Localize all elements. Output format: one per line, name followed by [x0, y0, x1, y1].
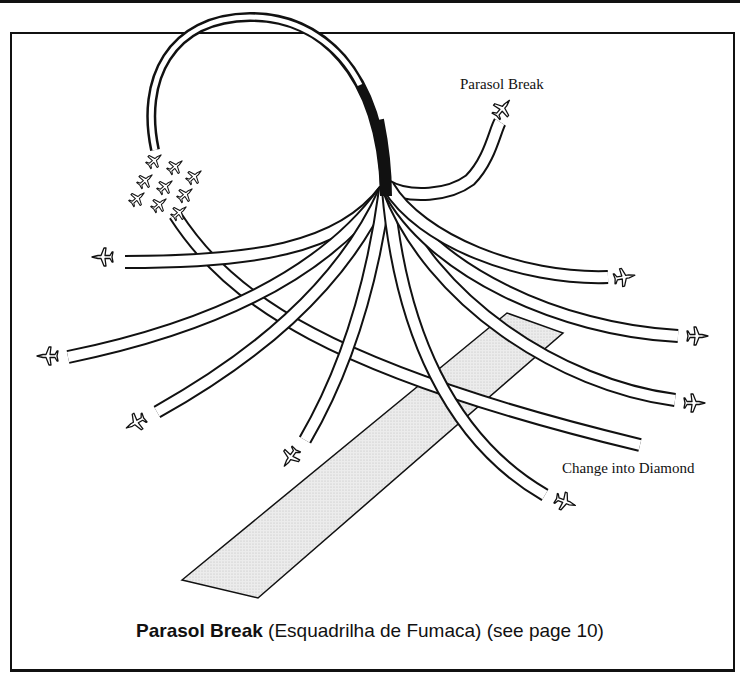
plane-icon: [277, 444, 304, 472]
plane-icon: [684, 394, 705, 412]
plane-icon: [687, 327, 708, 345]
plane-icon: [489, 95, 516, 123]
plane-icon: [122, 410, 149, 436]
diagram-canvas: Parasol Break Change into Diamond Paraso…: [0, 0, 740, 677]
parasol-break-illustration: [0, 0, 740, 677]
label-change-into-diamond: Change into Diamond: [562, 460, 694, 477]
formation-planes: [127, 149, 206, 223]
caption-detail: (Esquadrilha de Fumaca) (see page 10): [263, 620, 604, 641]
figure-caption: Parasol Break (Esquadrilha de Fumaca) (s…: [0, 620, 740, 642]
plane-icon: [92, 248, 113, 266]
caption-title: Parasol Break: [136, 620, 263, 641]
plane-icon: [553, 490, 579, 514]
plane-icon: [613, 266, 637, 287]
plane-icon: [37, 347, 58, 365]
label-parasol-break: Parasol Break: [460, 76, 544, 93]
